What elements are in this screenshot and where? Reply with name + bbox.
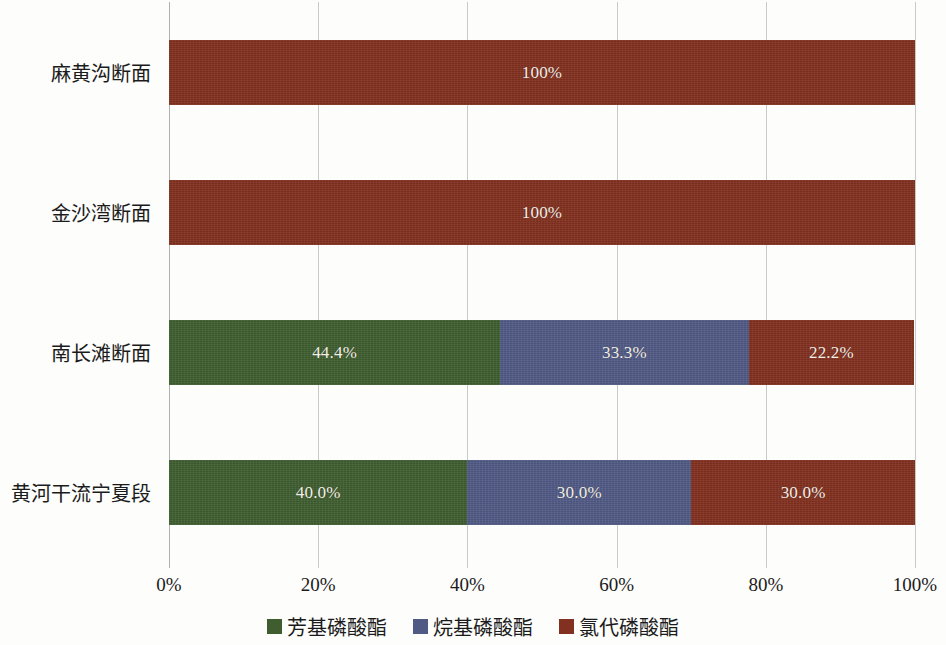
- plot-area: 100%100%44.4%33.3%22.2%40.0%30.0%30.0%: [169, 2, 915, 568]
- x-axis-tick-label: 20%: [273, 574, 363, 596]
- legend-label: 芳基磷酸酯: [287, 612, 387, 641]
- bar-row: 100%: [169, 40, 915, 105]
- bar-segment-label: 44.4%: [312, 343, 357, 363]
- bar-segment: 30.0%: [691, 460, 915, 525]
- bar-segment: 100%: [169, 40, 915, 105]
- bar-segment-label: 100%: [522, 203, 562, 223]
- x-axis-tick-label: 60%: [572, 574, 662, 596]
- bar-segment: 44.4%: [169, 320, 500, 385]
- bar-segment-label: 40.0%: [296, 483, 341, 503]
- legend-label: 氯代磷酸酯: [579, 612, 679, 641]
- y-axis-category-label: 麻黄沟断面: [0, 58, 151, 87]
- legend-swatch-icon: [267, 619, 282, 634]
- legend-item[interactable]: 氯代磷酸酯: [559, 612, 679, 641]
- legend-item[interactable]: 芳基磷酸酯: [267, 612, 387, 641]
- x-axis-tick-label: 0%: [124, 574, 214, 596]
- x-axis-tick-label: 80%: [721, 574, 811, 596]
- x-axis-tick-labels: 0%20%40%60%80%100%: [0, 574, 946, 602]
- y-axis-category-label: 黄河干流宁夏段: [0, 478, 151, 507]
- y-axis-category-label: 金沙湾断面: [0, 198, 151, 227]
- bar-row: 100%: [169, 180, 915, 245]
- legend-item[interactable]: 烷基磷酸酯: [413, 612, 533, 641]
- bar-segment: 22.2%: [749, 320, 915, 385]
- bar-segment: 40.0%: [169, 460, 467, 525]
- bar-segment: 100%: [169, 180, 915, 245]
- bar-segment-label: 30.0%: [781, 483, 826, 503]
- bar-segment: 30.0%: [467, 460, 691, 525]
- bar-row: 40.0%30.0%30.0%: [169, 460, 915, 525]
- legend-swatch-icon: [559, 619, 574, 634]
- bar-segment-label: 22.2%: [809, 343, 854, 363]
- bar-segment: 33.3%: [500, 320, 748, 385]
- x-axis-tick-label: 40%: [422, 574, 512, 596]
- y-axis-category-labels: 麻黄沟断面金沙湾断面南长滩断面黄河干流宁夏段: [0, 0, 159, 645]
- bar-segment-label: 100%: [522, 63, 562, 83]
- y-axis-category-label: 南长滩断面: [0, 338, 151, 367]
- bar-segment-label: 33.3%: [602, 343, 647, 363]
- bar-row: 44.4%33.3%22.2%: [169, 320, 915, 385]
- gridline-100: [915, 2, 916, 568]
- x-axis-tick-label: 100%: [870, 574, 946, 596]
- chart-legend: 芳基磷酸酯烷基磷酸酯氯代磷酸酯: [0, 612, 946, 641]
- bar-segment-label: 30.0%: [557, 483, 602, 503]
- legend-label: 烷基磷酸酯: [433, 612, 533, 641]
- legend-swatch-icon: [413, 619, 428, 634]
- stacked-bar-chart: 麻黄沟断面金沙湾断面南长滩断面黄河干流宁夏段 100%100%44.4%33.3…: [0, 0, 946, 645]
